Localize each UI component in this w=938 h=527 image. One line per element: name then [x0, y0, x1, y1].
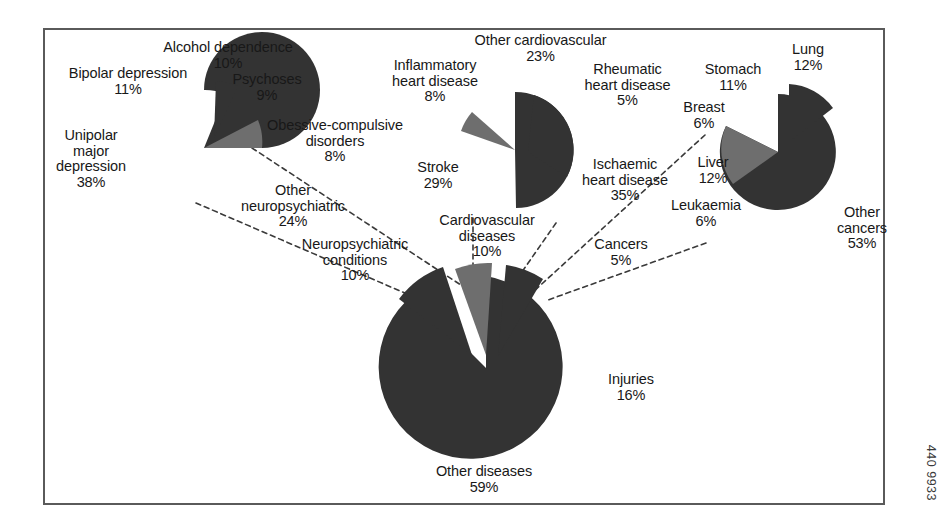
label-stroke: Stroke 29%	[398, 160, 478, 191]
label-cardiovascular-diseases: Cardiovascular diseases 10%	[422, 213, 552, 260]
label-other-diseases: Other diseases 59%	[394, 464, 574, 495]
label-cancers: Cancers 5%	[576, 237, 666, 268]
pie-main	[379, 263, 563, 459]
slice-cv-inflammatory	[461, 112, 515, 150]
label-other-cardiovascular: Other cardiovascular 23%	[448, 33, 633, 64]
label-breast: Breast 6%	[668, 100, 740, 131]
label-obsessive-compulsive-disorders: Obessive-compulsive disorders 8%	[250, 118, 420, 165]
label-leukaemia: Leukaemia 6%	[650, 198, 762, 229]
label-alcohol-dependence: Alcohol dependence 10%	[138, 40, 318, 71]
label-stomach: Stomach 11%	[688, 62, 778, 93]
label-neuropsychiatric-conditions: Neuropsychiatric conditions 10%	[280, 237, 430, 284]
figure-reference-code: 440 9933	[924, 445, 938, 501]
label-liver: Liver 12%	[678, 155, 748, 186]
label-other-cancers: Other cancers 53%	[812, 205, 912, 252]
label-unipolar-major-depression: Unipolar major depression 38%	[36, 128, 146, 190]
label-inflammatory-heart-disease: Inflammatory heart disease 8%	[370, 58, 500, 105]
label-psychoses: Psychoses 9%	[222, 72, 312, 103]
label-lung: Lung 12%	[768, 42, 848, 73]
label-injuries: Injuries 16%	[586, 372, 676, 403]
label-other-neuropsychiatric: Other neuropsychiatric 24%	[218, 183, 368, 230]
